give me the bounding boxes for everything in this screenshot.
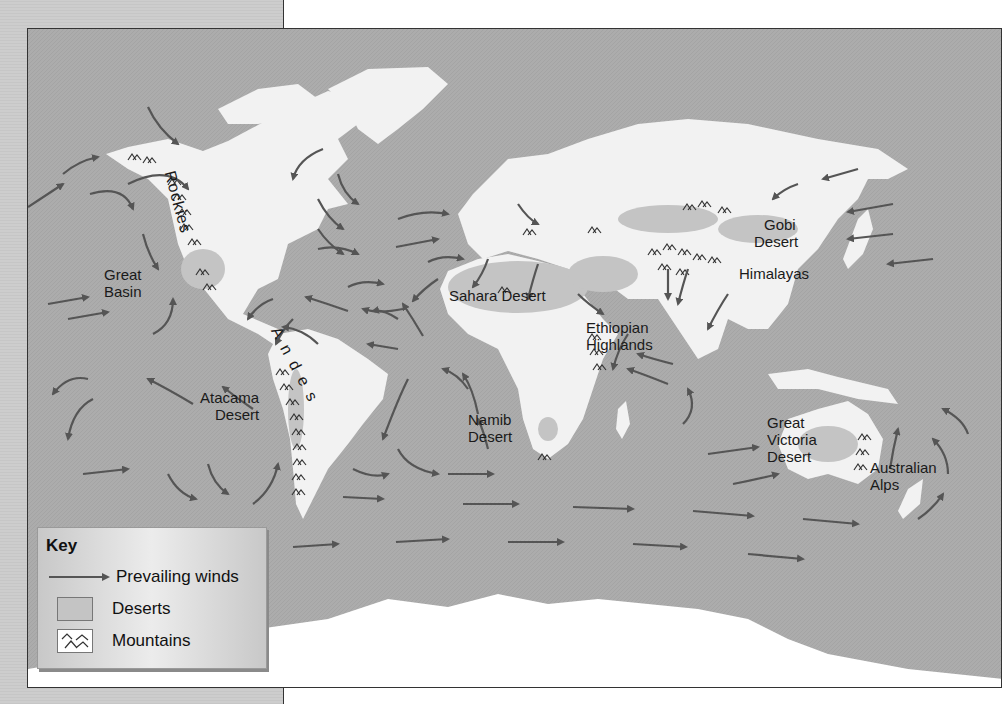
map-key: Key Prevailing winds Deserts Mountains bbox=[37, 527, 267, 669]
mountain-icon bbox=[56, 629, 94, 653]
label-line: Alps bbox=[870, 476, 937, 493]
label-line: Great bbox=[767, 414, 817, 431]
label-line: Desert bbox=[468, 428, 512, 445]
desert-arabia bbox=[568, 256, 638, 292]
label-line: Desert bbox=[754, 233, 798, 250]
key-item-deserts: Deserts bbox=[46, 596, 171, 622]
label-line: Desert bbox=[767, 448, 817, 465]
label-line: Great bbox=[104, 266, 142, 283]
key-label: Deserts bbox=[112, 599, 171, 619]
arrow-icon bbox=[46, 565, 112, 589]
label-line: Ethiopian bbox=[586, 319, 653, 336]
desert-central-asia bbox=[618, 205, 718, 233]
label-sahara-desert: Sahara Desert bbox=[449, 287, 546, 304]
label-line: Highlands bbox=[586, 336, 653, 353]
desert-great-basin bbox=[181, 249, 225, 289]
label-line: Desert bbox=[200, 406, 259, 423]
key-item-mountains: Mountains bbox=[46, 628, 190, 654]
world-map: Rockies Great Basin Andes Atacama Desert… bbox=[27, 28, 1002, 688]
desert-swatch-icon bbox=[56, 597, 94, 621]
key-label: Prevailing winds bbox=[116, 567, 239, 587]
label-atacama-desert: Atacama Desert bbox=[200, 389, 259, 423]
label-ethiopian-highlands: Ethiopian Highlands bbox=[586, 319, 653, 353]
label-line: Gobi bbox=[754, 216, 798, 233]
key-item-prevailing-winds: Prevailing winds bbox=[46, 564, 239, 590]
label-himalayas: Himalayas bbox=[739, 265, 809, 282]
label-great-basin: Great Basin bbox=[104, 266, 142, 300]
label-line: Atacama bbox=[200, 389, 259, 406]
label-gobi-desert: Gobi Desert bbox=[754, 216, 798, 250]
desert-namib bbox=[538, 417, 558, 441]
label-great-victoria-desert: Great Victoria Desert bbox=[767, 414, 817, 465]
label-line: Basin bbox=[104, 283, 142, 300]
key-label: Mountains bbox=[112, 631, 190, 651]
label-line: Australian bbox=[870, 459, 937, 476]
key-title: Key bbox=[46, 536, 77, 556]
label-line: Victoria bbox=[767, 431, 817, 448]
label-namib-desert: Namib Desert bbox=[468, 411, 512, 445]
label-australian-alps: Australian Alps bbox=[870, 459, 937, 493]
label-line: Namib bbox=[468, 411, 512, 428]
